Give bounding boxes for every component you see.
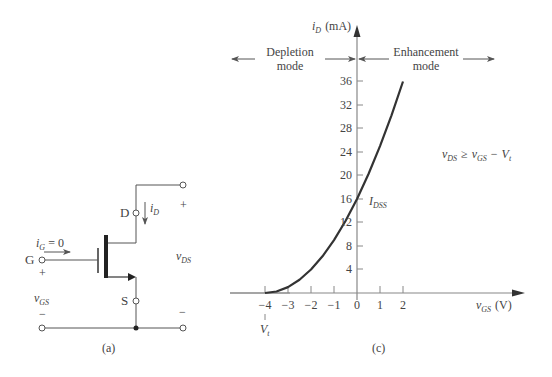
svg-text:24: 24	[340, 145, 352, 159]
svg-text:1: 1	[377, 298, 383, 312]
transfer-graph	[230, 25, 525, 320]
enhancement-mode-label-2: mode	[413, 59, 440, 73]
svg-text:32: 32	[340, 98, 352, 112]
svg-text:8: 8	[346, 239, 352, 253]
vds-plus-sign: +	[180, 198, 187, 212]
svg-text:16: 16	[340, 192, 352, 206]
vgs-minus-sign: −	[39, 307, 46, 321]
svg-text:−4: −4	[259, 298, 272, 312]
gate-terminal	[39, 257, 45, 263]
vds-minus-terminal	[180, 325, 186, 331]
idss-label: IDSS	[368, 194, 387, 210]
y-tick-labels: 36 32 28 24 20 16 12 8 4	[340, 74, 352, 276]
channel-bar	[104, 235, 108, 278]
svg-text:−3: −3	[282, 298, 295, 312]
y-axis-label: iD(mA)	[312, 19, 351, 35]
y-axis-arrow-icon	[354, 25, 361, 37]
vds-label: vDS	[176, 249, 191, 265]
circuit-caption: (a)	[102, 341, 115, 355]
ig-label: iG= 0	[36, 236, 64, 252]
svg-text:−1: −1	[328, 298, 341, 312]
saturation-condition: vDS≥vGS−Vt	[442, 147, 512, 163]
source-terminal	[133, 298, 139, 304]
drain-label: D	[120, 205, 129, 220]
svg-text:36: 36	[340, 74, 352, 88]
depletion-mode-label-2: mode	[277, 59, 304, 73]
svg-text:4: 4	[346, 262, 352, 276]
transfer-curve	[265, 82, 403, 294]
depletion-mode-label-1: Depletion	[266, 45, 313, 59]
vgs-label: vGS	[34, 291, 49, 307]
svg-text:0: 0	[354, 298, 360, 312]
y-ticks	[357, 81, 363, 269]
svg-text:−2: −2	[305, 298, 318, 312]
id-label: iD	[150, 201, 159, 217]
enhancement-mode-label-1: Enhancement	[393, 45, 459, 59]
source-arrow-icon	[128, 273, 136, 281]
svg-text:2: 2	[400, 298, 406, 312]
source-label: S	[121, 293, 128, 308]
svg-text:12: 12	[340, 215, 352, 229]
x-axis-label: vGS(V)	[476, 298, 512, 314]
vds-plus-terminal	[180, 182, 186, 188]
vgs-plus-sign: +	[39, 266, 46, 280]
drain-terminal	[133, 210, 139, 216]
graph-caption: (c)	[372, 341, 385, 355]
x-tick-labels: −4 −3 −2 −1 0 1 2	[259, 298, 406, 312]
vgs-minus-terminal	[39, 325, 45, 331]
x-axis-arrow-icon	[512, 290, 525, 297]
svg-text:20: 20	[340, 168, 352, 182]
svg-text:28: 28	[340, 121, 352, 135]
gate-label: G	[25, 252, 34, 267]
vds-minus-sign: −	[179, 305, 186, 319]
junction-dot	[134, 326, 139, 331]
vt-label: Vt	[260, 322, 270, 338]
mosfet-circuit	[39, 182, 186, 331]
